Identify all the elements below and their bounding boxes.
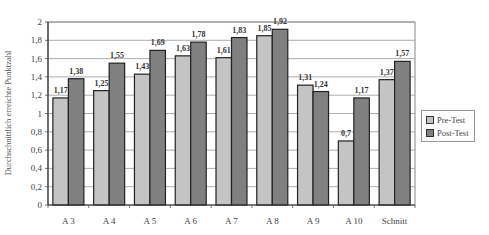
data-label: 1,17 [355,86,369,95]
data-label: 1,55 [110,51,124,60]
data-label: 1,85 [258,24,272,33]
bar-pre-test [257,36,273,205]
bar-chart: 1,171,381,251,551,431,691,631,781,611,83… [0,0,489,235]
y-axis-label: Durchschnittlich erreichte Punktzahl [3,50,13,175]
data-label: 1,25 [94,79,108,88]
bar-post-test [191,42,207,205]
bar-pre-test [134,74,150,205]
data-label: 1,17 [54,86,68,95]
y-tick-label: 2 [38,17,43,27]
data-label: 1,38 [69,67,83,76]
bar-pre-test [216,58,232,205]
data-label: 1,61 [217,46,231,55]
data-label: 1,63 [176,44,190,53]
y-tick-label: 0,6 [31,145,43,155]
data-label: 1,83 [232,26,246,35]
x-tick-label: Schnitt [382,216,408,226]
legend-item-pre-test: Pre-Test [426,115,465,125]
data-label: 1,43 [135,62,149,71]
data-label: 1,78 [191,30,205,39]
legend-label: Pre-Test [437,115,465,125]
x-tick-label: A 5 [144,216,157,226]
data-label: 1,57 [395,49,409,58]
y-tick-label: 0 [38,200,43,210]
bar-post-test [232,38,248,205]
bar-pre-test [53,98,68,205]
x-tick-label: A 7 [225,216,238,226]
y-tick-label: 0,2 [31,182,42,192]
legend: Pre-Test Post-Test [421,110,475,142]
bar-pre-test [338,141,354,205]
bar-post-test [354,98,370,205]
legend-swatch-pre-test [426,116,434,124]
bar-pre-test [298,85,314,205]
y-tick-label: 1,8 [31,35,43,45]
bar-post-test [109,63,125,205]
bar-pre-test [175,56,191,205]
x-tick-label: A 9 [307,216,320,226]
data-label: 1,92 [273,17,287,26]
x-tick-label: A 3 [62,216,75,226]
data-label: 1,31 [298,73,312,82]
x-tick-label: A 8 [266,216,279,226]
bar-post-test [150,50,166,205]
data-label: 1,37 [380,68,394,77]
y-tick-label: 0,8 [31,127,43,137]
y-tick-label: 1,2 [31,90,42,100]
data-label: 1,24 [314,80,328,89]
y-tick-label: 1,4 [31,72,43,82]
bar-pre-test [94,91,110,205]
x-tick-label: A 10 [345,216,363,226]
bar-post-test [395,61,411,205]
bar-pre-test [379,80,395,205]
legend-item-post-test: Post-Test [426,128,469,138]
data-label: 1,69 [151,38,165,47]
x-tick-label: A 4 [103,216,116,226]
data-label: 0,7 [341,129,351,138]
bar-post-test [272,29,288,205]
x-tick-label: A 6 [184,216,197,226]
y-tick-label: 1,6 [31,54,43,64]
legend-label: Post-Test [437,128,469,138]
y-tick-label: 0,4 [31,163,43,173]
bar-post-test [68,79,84,205]
y-tick-label: 1 [38,109,43,119]
bar-post-test [313,92,329,205]
legend-swatch-post-test [426,129,434,137]
